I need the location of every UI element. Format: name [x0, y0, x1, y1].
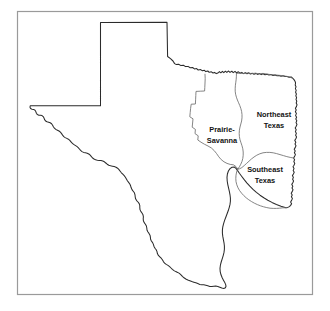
northeast-texas-label-line-1: Northeast — [257, 110, 292, 119]
texas-ecoregions-map-figure: Prairie- Savanna Northeast Texas Southea… — [0, 0, 330, 311]
northeast-texas-label-line-2: Texas — [264, 121, 284, 130]
southeast-texas-label-line-2: Texas — [255, 176, 275, 185]
prairie-savanna-label-line-2: Savanna — [207, 136, 238, 145]
southeast-texas-label-line-1: Southeast — [247, 165, 283, 174]
map-canvas: Prairie- Savanna Northeast Texas Southea… — [0, 0, 330, 311]
prairie-savanna-label-line-1: Prairie- — [209, 125, 235, 134]
